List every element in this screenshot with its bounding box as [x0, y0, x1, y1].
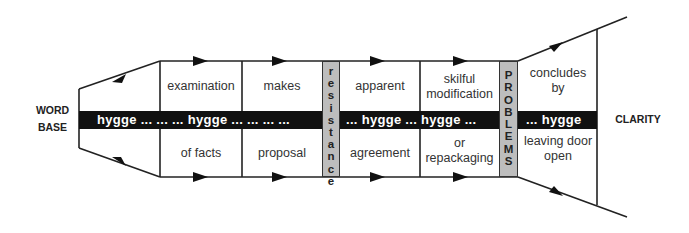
cell-bottom-4: or repackaging: [420, 136, 499, 166]
cell-bottom-2: proposal: [242, 146, 322, 161]
cell-bottom-3: agreement: [340, 146, 420, 161]
word-base-line-2: BASE: [30, 119, 75, 136]
barrier-letter: e: [323, 77, 339, 89]
word-base-label: WORD BASE: [30, 102, 75, 136]
barrier-letter: a: [323, 138, 339, 150]
barrier-letter: i: [323, 102, 339, 114]
problems-barrier: P R O B L E M S: [499, 61, 518, 177]
barrier-letter: L: [500, 118, 517, 130]
barrier-letter: r: [323, 65, 339, 77]
band-segment-2: ... hygge ... hygge ...: [340, 111, 499, 129]
cell-top-3: apparent: [340, 79, 420, 94]
cell-bottom-1: of facts: [160, 146, 242, 161]
clarity-label: CLARITY: [608, 111, 668, 128]
barrier-letter: E: [500, 130, 517, 142]
barrier-letter: e: [323, 175, 339, 187]
resistance-barrier: r e s i s t a n c e: [322, 61, 340, 177]
band-segment-3: ... hygge: [518, 111, 597, 129]
barrier-letter: c: [323, 163, 339, 175]
barrier-letter: n: [323, 150, 339, 162]
barrier-letter: t: [323, 126, 339, 138]
barrier-letter: s: [323, 114, 339, 126]
cell-bottom-5: leaving door open: [523, 134, 593, 164]
barrier-letter: S: [500, 155, 517, 167]
cell-top-1: examination: [160, 79, 242, 94]
barrier-letter: s: [323, 89, 339, 101]
cell-top-2: makes: [242, 79, 322, 94]
word-base-line-1: WORD: [30, 102, 75, 119]
barrier-letter: P: [500, 69, 517, 81]
cell-top-4: skilful modification: [420, 72, 499, 102]
barrier-letter: O: [500, 94, 517, 106]
communication-flow-diagram: WORD BASE CLARITY hygge ... ... ... hygg…: [0, 0, 689, 233]
band-segment-1: hygge ... ... ... hygge ... ... ... ...: [79, 111, 322, 129]
cell-top-5: concludes by: [523, 66, 593, 96]
barrier-letter: M: [500, 143, 517, 155]
barrier-letter: R: [500, 81, 517, 93]
barrier-letter: B: [500, 106, 517, 118]
